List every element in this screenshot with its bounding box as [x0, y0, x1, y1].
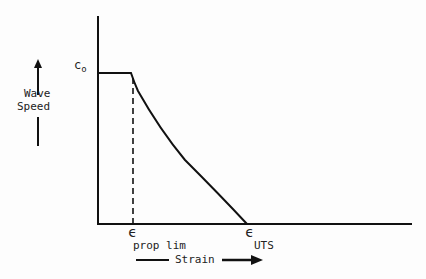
prop-lim-label: prop lim: [133, 240, 186, 252]
c-subscript: o: [81, 64, 86, 74]
epsilon-uts-symbol: ϵ: [245, 226, 253, 238]
wave-speed-curve: [98, 73, 247, 224]
chart-canvas: [0, 0, 426, 279]
up-arrowhead-icon: [34, 59, 42, 68]
wave-label: Wave: [24, 88, 51, 100]
uts-label: UTS: [254, 240, 274, 252]
epsilon-prop-symbol: ϵ: [128, 226, 136, 238]
speed-label: Speed: [17, 101, 50, 113]
right-arrowhead-icon: [251, 255, 263, 265]
c0-label: co: [74, 59, 87, 75]
strain-label: Strain: [175, 254, 215, 266]
